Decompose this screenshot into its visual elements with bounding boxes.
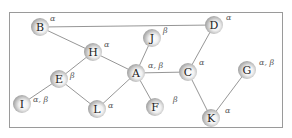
node-J: J bbox=[143, 29, 161, 47]
node-tag-F: β bbox=[173, 96, 178, 104]
node-G: G bbox=[238, 61, 256, 79]
node-tag-I: α, β bbox=[33, 96, 48, 104]
edge-B-D bbox=[40, 25, 214, 27]
node-F: F bbox=[146, 98, 164, 116]
node-B: B bbox=[31, 18, 49, 36]
node-tag-A: α, β bbox=[148, 62, 163, 70]
node-tag-H: α bbox=[104, 41, 109, 49]
node-E: E bbox=[50, 70, 68, 88]
node-tag-B: α bbox=[50, 15, 55, 23]
node-tag-E: β bbox=[70, 72, 75, 80]
node-tag-L: α bbox=[108, 102, 113, 110]
node-L: L bbox=[88, 100, 106, 118]
node-I: I bbox=[13, 95, 31, 113]
node-tag-J: β bbox=[163, 27, 168, 35]
node-C: C bbox=[179, 63, 197, 81]
node-tag-D: α bbox=[226, 14, 231, 22]
node-tag-K: α bbox=[225, 107, 230, 115]
node-tag-G: α, β bbox=[259, 59, 274, 67]
graph-diagram: BαDαJβHαAα, βCαGα, βEβIα, βLαFβKα bbox=[0, 0, 292, 138]
node-H: H bbox=[84, 43, 102, 61]
node-K: K bbox=[202, 109, 220, 127]
node-tag-C: α bbox=[199, 59, 204, 67]
node-D: D bbox=[205, 16, 223, 34]
node-A: A bbox=[127, 64, 145, 82]
